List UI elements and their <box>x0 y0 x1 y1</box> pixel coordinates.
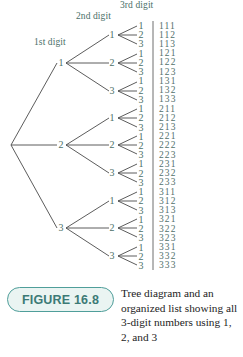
column-header-second-digit: 2nd digit <box>76 11 111 21</box>
column-header-third-digit: 3rd digit <box>120 0 153 10</box>
tree-node-first-digit: 1 <box>57 59 65 67</box>
tree-node-first-digit: 3 <box>57 224 65 232</box>
tree-node-second-digit: 1 <box>108 197 116 205</box>
tree-node-first-digit: 2 <box>57 141 65 149</box>
figure-caption-block: FIGURE 16.8 Tree diagram and an organize… <box>0 286 243 357</box>
figure-container: 1st digit 2nd digit 3rd digit 1 2 3 1 2 … <box>0 0 243 357</box>
organized-list-number: 333 <box>159 261 177 270</box>
tree-node-second-digit: 3 <box>108 169 116 177</box>
organized-list-number: 133 <box>159 95 177 104</box>
tree-node-second-digit: 3 <box>108 87 116 95</box>
tree-node-second-digit: 3 <box>108 252 116 260</box>
tree-node-second-digit: 2 <box>108 59 116 67</box>
figure-caption-text: Tree diagram and an organized list showi… <box>121 286 241 344</box>
tree-leaf-third-digit: 3 <box>137 262 145 270</box>
tree-node-second-digit: 2 <box>108 224 116 232</box>
column-header-first-digit: 1st digit <box>34 37 66 47</box>
figure-number-badge: FIGURE 16.8 <box>7 287 114 312</box>
tree-node-second-digit: 1 <box>108 114 116 122</box>
tree-node-second-digit: 1 <box>108 31 116 39</box>
figure-number-label: FIGURE 16.8 <box>22 293 99 307</box>
organized-list-number: 321 <box>159 215 177 224</box>
tree-node-second-digit: 2 <box>108 141 116 149</box>
